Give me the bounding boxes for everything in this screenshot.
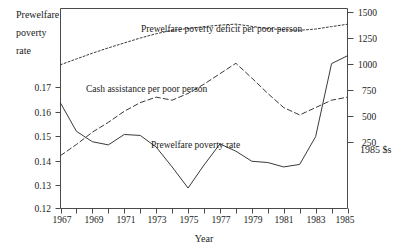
y2-axis-title: 1985 $s: [360, 144, 392, 155]
y-axis-left-ticks: 0.17 0.16 0.15 0.14 0.13 0.12: [34, 83, 60, 214]
series-line-prewelfare-poverty-rate: [61, 56, 348, 188]
series-label-cash: Cash assistance per poor person: [86, 84, 208, 94]
x-axis-tick-labels: 1967 1969 1971 1973 1975 1977 1979 1981 …: [53, 215, 355, 225]
plot-frame: [61, 9, 348, 209]
series-annotations: Prewelfare poverty deficit per poor pers…: [86, 24, 302, 150]
y2-tick-label-2: 1000: [358, 60, 377, 70]
y-tick-label-4: 0.13: [34, 181, 51, 191]
x-tick-label-1975: 1975: [180, 215, 199, 225]
chart-svg: 0.17 0.16 0.15 0.14 0.13 0.12 1500 1250 …: [0, 0, 404, 251]
y-axis-title-line3: rate: [16, 45, 32, 56]
series-label-rate: Prewelfare poverty rate: [151, 140, 240, 150]
y-tick-label-5: 0.12: [34, 204, 51, 214]
x-tick-label-1985: 1985: [336, 215, 355, 225]
x-tick-label-1981: 1981: [275, 215, 294, 225]
y2-tick-label-1: 1250: [358, 34, 377, 44]
x-tick-label-1967: 1967: [53, 215, 72, 225]
y-tick-label-0: 0.17: [34, 83, 51, 93]
x-tick-label-1977: 1977: [212, 215, 231, 225]
chart-figure: 0.17 0.16 0.15 0.14 0.13 0.12 1500 1250 …: [0, 0, 404, 251]
series-label-deficit: Prewelfare poverty deficit per poor pers…: [141, 24, 302, 34]
y2-tick-label-3: 750: [362, 86, 377, 96]
x-axis-title: Year: [195, 233, 214, 244]
y2-tick-label-0: 1500: [358, 8, 377, 18]
x-tick-label-1971: 1971: [117, 215, 136, 225]
y2-tick-label-4: 500: [362, 112, 377, 122]
y-tick-label-1: 0.16: [34, 108, 51, 118]
y-axis-right-ticks: 1500 1250 1000 750 500 250: [348, 8, 378, 148]
x-tick-label-1969: 1969: [85, 215, 104, 225]
y-axis-title: Prewelfare poverty rate: [16, 9, 60, 56]
x-tick-label-1979: 1979: [244, 215, 263, 225]
x-tick-label-1983: 1983: [307, 215, 326, 225]
y-tick-label-3: 0.14: [34, 157, 51, 167]
y-tick-label-2: 0.15: [34, 132, 51, 142]
y-axis-title-line2: poverty: [16, 27, 47, 38]
series-lines: [61, 24, 348, 188]
y-axis-title-line1: Prewelfare: [16, 9, 60, 20]
x-axis-ticks: [62, 209, 349, 214]
x-tick-label-1973: 1973: [148, 215, 167, 225]
